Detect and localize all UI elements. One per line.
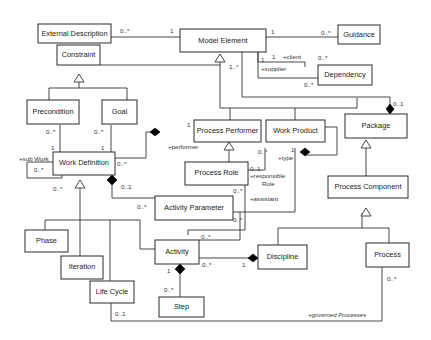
gen-arrow-performer [224,142,234,150]
class-activity-parameter[interactable]: Activity Parameter [155,196,233,220]
gen-arrow-pc [361,208,371,216]
assoc-wd-performer [115,132,160,158]
class-process-component[interactable]: Process Component [328,176,408,198]
mult-activity-discipline: 0..* [202,261,212,268]
mult-dep-client-end: 0..* [318,54,328,61]
class-constraint[interactable]: Constraint [57,45,100,65]
gen-arrow-wd [75,180,85,188]
class-iteration[interactable]: Iteration [61,256,103,279]
role-supplier: +supplier [261,65,286,72]
mult-goal: 0..* [94,128,104,135]
gen-arrow-constraint [74,74,84,82]
composition-activity [175,264,185,274]
mult-dep-client: 1 [272,53,276,60]
gen-constraint-branch [49,88,127,100]
svg-text:Iteration: Iteration [69,262,96,271]
mult-subwork-2: 0..* [53,185,63,192]
mult-subwork-1: 0..* [34,166,44,173]
svg-text:Constraint: Constraint [62,50,96,59]
mult-wd-param-comp: 0..1 [121,183,132,190]
role-responsible-2: Role [262,180,275,187]
role-subwork: +sub Work [19,155,50,162]
class-process-role[interactable]: Process Role [185,162,248,185]
class-discipline[interactable]: Discipline [258,245,307,269]
mult-step: 0..* [164,286,174,293]
class-process[interactable]: Process [366,243,409,267]
mult-param-type: 0..* [233,216,243,223]
svg-text:Process: Process [374,250,401,259]
svg-text:Process Performer: Process Performer [197,126,259,135]
mult-extdesc: 0..* [120,27,130,34]
mult-resp-wp: 0..* [258,148,268,155]
svg-text:Guidance: Guidance [343,30,375,39]
svg-text:Process Role: Process Role [195,168,239,177]
class-precondition[interactable]: Precondition [27,100,79,124]
role-assistant: +assistant [250,195,278,202]
mult-model-guidance: 1 [271,28,275,35]
mult-precondition-wd: 1 [51,144,55,151]
svg-text:External Description: External Description [41,29,107,38]
gen-pc-branch [278,228,389,245]
gen-arrow-package [361,140,371,148]
class-activity[interactable]: Activity [155,240,199,264]
mult-dep-supplier-end: 0..* [304,81,314,88]
svg-text:Life Cycle: Life Cycle [96,287,128,296]
class-model-element[interactable]: Model Element [180,29,266,52]
role-performer: +performer [168,143,198,150]
mult-wd-performer: 0..* [117,160,127,167]
mult-dep-supplier: 1 [261,56,265,63]
composition-performer [150,128,160,136]
svg-text:Activity Parameter: Activity Parameter [164,203,225,212]
svg-text:Package: Package [362,121,391,130]
role-responsible: +responsible [250,172,286,179]
composition-discipline [248,254,258,262]
class-dependency[interactable]: Dependency [318,65,372,85]
mult-assistant: 0..* [233,187,243,194]
class-work-definition[interactable]: Work Definition [53,152,115,175]
class-guidance[interactable]: Guidance [338,25,380,44]
mult-lifecycle: 0..1 [115,310,126,317]
uml-class-diagram: External Description Model Element Guida… [0,0,431,340]
svg-text:Phase: Phase [36,236,57,245]
svg-text:Dependency: Dependency [324,70,366,79]
gen-arrow-model [215,54,225,62]
composition-wd [107,175,117,185]
mult-process: 0..* [387,275,397,282]
class-package[interactable]: Package [345,114,407,138]
mult-activity-assist: 0..* [201,233,211,240]
svg-text:Precondition: Precondition [32,107,73,116]
class-process-performer[interactable]: Process Performer [194,120,261,142]
mult-wp-type: 1 [291,146,295,153]
role-type: +type [278,154,294,161]
mult-param-wd: 0..* [137,203,147,210]
mult-model-extdesc: 1 [170,27,174,34]
svg-text:Discipline: Discipline [267,252,299,261]
mult-performer: 1 [187,121,191,128]
class-work-product[interactable]: Work Product [266,120,325,142]
mult-resp-role: 0..1 [250,165,261,172]
svg-text:Goal: Goal [112,107,128,116]
mult-precondition: 0..* [46,128,56,135]
role-client: +client [283,53,301,60]
class-life-cycle[interactable]: Life Cycle [90,281,134,303]
class-goal[interactable]: Goal [102,100,137,124]
assoc-wd-parameter [112,175,155,198]
svg-text:Process Component: Process Component [335,182,402,191]
class-external-description[interactable]: External Description [38,24,111,43]
svg-text:Activity: Activity [165,247,189,256]
class-phase[interactable]: Phase [25,230,68,252]
svg-text:Work Definition: Work Definition [59,158,109,167]
mult-discipline: 1 [242,261,246,268]
mult-model-package: 1..* [229,63,239,70]
mult-guidance: 0..* [321,29,331,36]
class-step[interactable]: Step [159,297,204,317]
mult-package: 0..1 [393,100,404,107]
role-governed-processes: +governed Processes [308,312,366,318]
mult-goal-wd: 1 [101,144,105,151]
svg-text:Step: Step [174,302,189,311]
svg-text:Work Product: Work Product [273,126,318,135]
mult-activity-step: 1 [167,267,171,274]
svg-text:Model Element: Model Element [198,36,247,45]
